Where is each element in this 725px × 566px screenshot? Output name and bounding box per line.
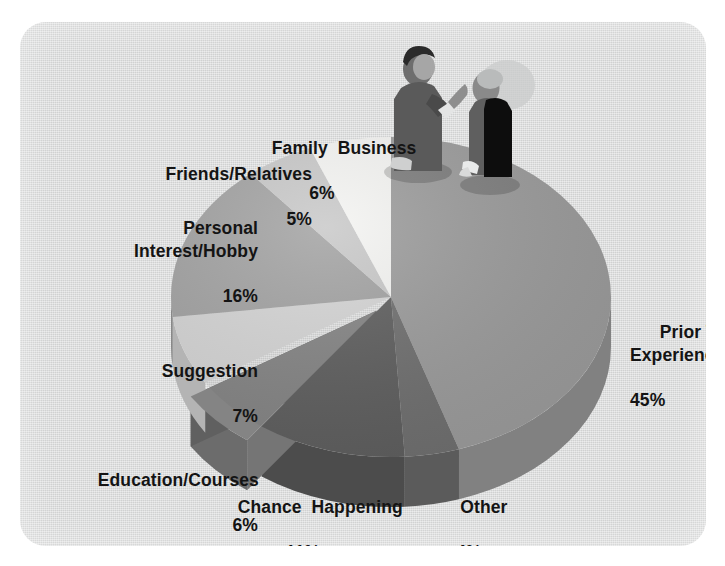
- slice-value-text: 7%: [76, 405, 258, 428]
- slice-label-other: Other 4%: [420, 473, 518, 546]
- slice-label-text: Chance Happening: [238, 497, 403, 517]
- black-businessperson-figure: [459, 60, 535, 177]
- slice-label-prior-work-experience: Prior Work Experience 45%: [630, 298, 706, 457]
- slice-label-text: Friends/Relatives: [165, 164, 312, 184]
- slice-value-text: 4%: [420, 541, 518, 546]
- chart-panel: Family Business 6% Friends/Relatives 5% …: [20, 22, 706, 546]
- slice-label-text: Prior Work Experience: [630, 322, 706, 365]
- figure-pointing-hand: [448, 84, 468, 109]
- figure-shadow-right: [460, 175, 520, 195]
- slice-value-text: 45%: [630, 389, 706, 412]
- slice-label-text: Personal Interest/Hobby: [134, 218, 258, 261]
- slice-value-text: 16%: [68, 285, 258, 308]
- slice-value-text: 11%: [208, 541, 398, 546]
- figure-torso: [484, 98, 512, 177]
- figure-face: [413, 54, 435, 80]
- slice-label-text: Other: [460, 497, 507, 517]
- screenshot-root: Family Business 6% Friends/Relatives 5% …: [0, 0, 725, 566]
- slice-label-personal-interest-hobby: Personal Interest/Hobby 16%: [68, 194, 258, 353]
- slice-label-text: Suggestion: [162, 361, 258, 381]
- slice-label-chance-happening: Chance Happening 11%: [208, 473, 398, 546]
- figure-hair: [477, 69, 503, 89]
